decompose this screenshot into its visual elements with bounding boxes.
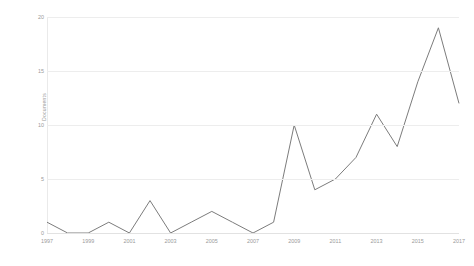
x-tick-label-2001: 2001 bbox=[123, 238, 135, 244]
x-tick-label-2017: 2017 bbox=[453, 238, 465, 244]
y-tick-label-20: 20 bbox=[38, 14, 44, 20]
gridline-y-0 bbox=[47, 233, 459, 234]
y-tick-label-10: 10 bbox=[38, 122, 44, 128]
x-tick-label-2003: 2003 bbox=[165, 238, 177, 244]
gridline-y-10 bbox=[47, 125, 459, 126]
x-tick-label-2009: 2009 bbox=[288, 238, 300, 244]
x-tick-label-2013: 2013 bbox=[371, 238, 383, 244]
gridline-y-5 bbox=[47, 179, 459, 180]
gridline-y-15 bbox=[47, 71, 459, 72]
x-tick-label-1997: 1997 bbox=[41, 238, 53, 244]
plot-area bbox=[47, 17, 459, 233]
x-tick-label-2007: 2007 bbox=[247, 238, 259, 244]
y-axis-tick-labels: 05101520 bbox=[24, 12, 44, 238]
y-tick-label-15: 15 bbox=[38, 68, 44, 74]
documents-by-year-line-chart: Documents 05101520 199719992001200320052… bbox=[0, 0, 474, 266]
x-axis-tick-labels: 1997199920012003200520072009201120132015… bbox=[47, 238, 459, 250]
x-tick-label-2015: 2015 bbox=[412, 238, 424, 244]
y-tick-label-5: 5 bbox=[41, 176, 44, 182]
x-tick-label-2005: 2005 bbox=[206, 238, 218, 244]
x-tick-label-2011: 2011 bbox=[330, 238, 342, 244]
series-polyline bbox=[47, 28, 459, 233]
gridline-y-20 bbox=[47, 17, 459, 18]
y-tick-label-0: 0 bbox=[41, 230, 44, 236]
x-tick-label-1999: 1999 bbox=[82, 238, 94, 244]
